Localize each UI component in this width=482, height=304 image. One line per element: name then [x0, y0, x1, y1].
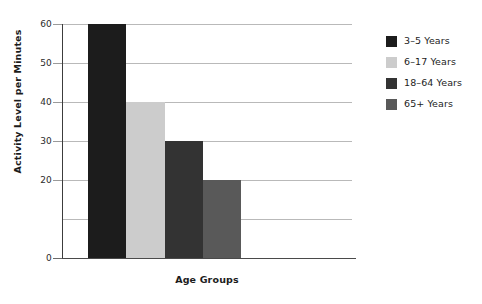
legend-swatch-icon — [386, 36, 397, 47]
y-axis-tick — [53, 141, 62, 142]
bar — [165, 141, 203, 258]
chart-legend: 3–5 Years6–17 Years18–64 Years65+ Years — [386, 33, 482, 117]
y-axis-tick — [53, 24, 62, 25]
legend-swatch-icon — [386, 99, 397, 110]
bar — [88, 24, 126, 258]
bar-chart: Activity Level per Minutes Age Groups 3–… — [0, 0, 482, 304]
y-axis-tick-label-wrap: 20 — [0, 175, 52, 185]
legend-item-label: 65+ Years — [404, 97, 453, 111]
legend-swatch-icon — [386, 78, 397, 89]
bars-group — [62, 24, 352, 258]
y-axis-tick-label-wrap: 50 — [0, 58, 52, 68]
y-axis-tick-label: 30 — [4, 136, 52, 146]
y-axis-tick-label: 20 — [4, 175, 52, 185]
y-axis-tick — [53, 258, 62, 259]
legend-item[interactable]: 65+ Years — [386, 96, 482, 116]
y-axis-tick-label-wrap: 30 — [0, 136, 52, 146]
legend-item[interactable]: 18–64 Years — [386, 75, 482, 95]
legend-item-label: 3–5 Years — [404, 34, 450, 48]
y-axis-tick-label-wrap: 0 — [0, 253, 52, 263]
bar — [126, 102, 164, 258]
y-axis-tick-label-wrap: 40 — [0, 97, 52, 107]
y-axis-tick-label: 50 — [4, 58, 52, 68]
y-axis-tick-label: 60 — [4, 19, 52, 29]
x-axis-title: Age Groups — [62, 274, 352, 285]
y-axis-tick-label: 0 — [4, 253, 52, 263]
bar — [203, 180, 241, 258]
legend-item-label: 6–17 Years — [404, 55, 456, 69]
y-axis-tick — [53, 63, 62, 64]
y-axis-tick — [53, 102, 62, 103]
y-axis-tick-label-wrap: 60 — [0, 19, 52, 29]
y-axis-tick — [53, 180, 62, 181]
legend-item-label: 18–64 Years — [404, 76, 462, 90]
y-axis-tick-label: 40 — [4, 97, 52, 107]
legend-item[interactable]: 6–17 Years — [386, 54, 482, 74]
legend-swatch-icon — [386, 57, 397, 68]
x-axis-line — [56, 258, 356, 259]
legend-item[interactable]: 3–5 Years — [386, 33, 482, 53]
